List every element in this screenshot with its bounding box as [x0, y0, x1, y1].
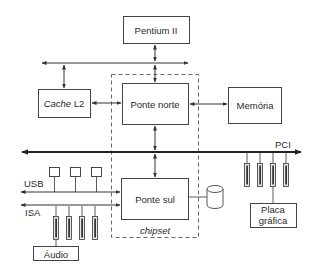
- usb-devices: [50, 168, 102, 193]
- graphics-card-label: Placa gráfica: [259, 204, 288, 226]
- pci-label: PCI: [275, 139, 291, 150]
- usb-label: USB: [24, 178, 44, 189]
- chipset-label: chipset: [140, 225, 170, 236]
- south-bridge-label: Ponte sul: [135, 194, 175, 205]
- graphics-card-label-line1: Placa: [259, 204, 288, 215]
- cache-label-rest: L2: [71, 98, 84, 109]
- north-bridge-label: Ponte norte: [130, 99, 179, 110]
- cache-label-italic: Cache: [44, 98, 71, 109]
- isa-label: ISA: [25, 207, 40, 218]
- graphics-card-label-line2: gráfica: [259, 215, 288, 226]
- pci-slots: [245, 153, 289, 203]
- memory-label: Memória: [237, 100, 274, 111]
- disk-icon: [207, 186, 223, 209]
- cache-label: Cache L2: [44, 98, 85, 109]
- isa-slots: [54, 206, 98, 246]
- cpu-label: Pentium II: [135, 25, 178, 36]
- audio-label: Áudio: [44, 248, 68, 259]
